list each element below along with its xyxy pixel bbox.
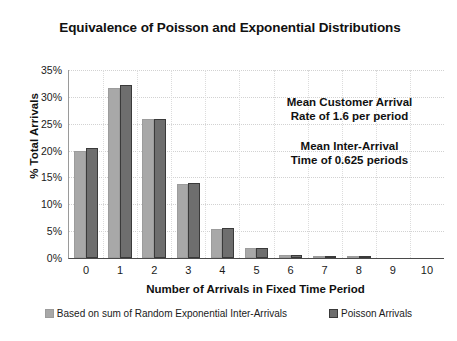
x-tick-label: 10 — [421, 264, 433, 276]
x-tick-label: 9 — [390, 264, 396, 276]
x-tick-label: 6 — [288, 264, 294, 276]
bar[interactable] — [256, 248, 268, 258]
annotation-mean-arrival-rate: Mean Customer Arrival Rate of 1.6 per pe… — [252, 95, 447, 123]
y-tick-label: 20% — [41, 145, 62, 157]
legend-swatch-icon — [45, 309, 54, 318]
bar[interactable] — [142, 119, 154, 258]
y-tick-label: 35% — [41, 64, 62, 76]
chart-container: Equivalence of Poisson and Exponential D… — [0, 0, 457, 341]
bar[interactable] — [313, 256, 325, 258]
annotation-mean-inter-arrival-time: Mean Inter-Arrival Time of 0.625 periods — [252, 139, 447, 167]
legend-item-exponential[interactable]: Based on sum of Random Exponential Inter… — [45, 308, 287, 319]
bar[interactable] — [74, 151, 86, 258]
x-tick-label: 0 — [83, 264, 89, 276]
x-axis-title: Number of Arrivals in Fixed Time Period — [68, 283, 443, 295]
x-tick-label: 7 — [322, 264, 328, 276]
bar-group: 3 — [171, 70, 205, 258]
bar[interactable] — [245, 248, 257, 258]
bar-group: 2 — [137, 70, 171, 258]
bar[interactable] — [177, 184, 189, 258]
x-tick-label: 1 — [117, 264, 123, 276]
bar[interactable] — [120, 85, 132, 258]
y-tick-label: 15% — [41, 171, 62, 183]
legend-item-poisson[interactable]: Poisson Arrivals — [329, 308, 412, 319]
bar[interactable] — [347, 256, 359, 258]
x-tick-label: 5 — [253, 264, 259, 276]
bar-group: 1 — [103, 70, 137, 258]
bar[interactable] — [211, 229, 223, 258]
bar[interactable] — [359, 256, 371, 258]
bar[interactable] — [222, 228, 234, 258]
bar[interactable] — [279, 255, 291, 258]
y-axis-title: % Total Arrivals — [28, 76, 40, 196]
x-tick-label: 2 — [151, 264, 157, 276]
y-tick-label: 25% — [41, 118, 62, 130]
chart-title: Equivalence of Poisson and Exponential D… — [40, 20, 420, 36]
x-tick-label: 3 — [185, 264, 191, 276]
bar[interactable] — [188, 183, 200, 258]
legend-label: Poisson Arrivals — [341, 308, 412, 319]
bar[interactable] — [325, 256, 337, 258]
y-tick-label: 30% — [41, 91, 62, 103]
y-tick-label: 5% — [47, 225, 62, 237]
y-tick-label: 10% — [41, 198, 62, 210]
bar[interactable] — [291, 255, 303, 258]
bar[interactable] — [154, 119, 166, 258]
legend-swatch-icon — [329, 309, 338, 318]
x-tick-label: 8 — [356, 264, 362, 276]
chart-legend: Based on sum of Random Exponential Inter… — [0, 308, 457, 319]
y-tick-label: 0% — [47, 252, 62, 264]
legend-label: Based on sum of Random Exponential Inter… — [57, 308, 287, 319]
bar[interactable] — [86, 148, 98, 258]
x-tick-label: 4 — [219, 264, 225, 276]
bar-group: 4 — [205, 70, 239, 258]
bar[interactable] — [108, 88, 120, 258]
bar-group: 0 — [69, 70, 103, 258]
